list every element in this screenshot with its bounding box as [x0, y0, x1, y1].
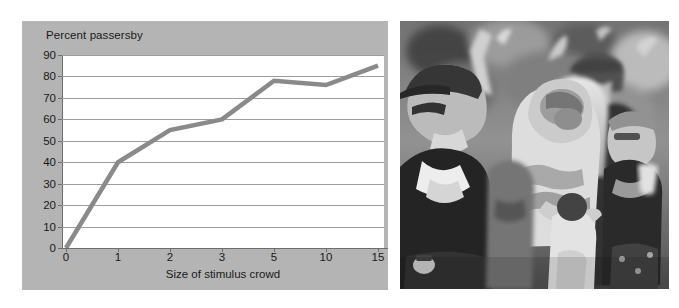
- x-axis-title: Size of stimulus crowd: [62, 268, 384, 280]
- y-tick-mark: [58, 184, 62, 185]
- y-tick-label: 0: [22, 242, 56, 254]
- figure-page: Percent passersby 0102030405060708090 01…: [0, 0, 679, 308]
- x-tick-label: 10: [320, 251, 333, 263]
- x-tick-mark: [222, 248, 223, 252]
- x-tick-mark: [274, 248, 275, 252]
- y-tick-mark: [58, 76, 62, 77]
- y-tick-label: 60: [22, 113, 56, 125]
- x-tick-mark: [118, 248, 119, 252]
- series-line: [62, 55, 384, 248]
- y-tick-label: 90: [22, 49, 56, 61]
- x-tick-label: 15: [372, 251, 385, 263]
- y-tick-label: 70: [22, 92, 56, 104]
- y-tick-mark: [58, 55, 62, 56]
- y-tick-mark: [58, 141, 62, 142]
- x-tick-label: 0: [63, 251, 69, 263]
- y-tick-label: 50: [22, 135, 56, 147]
- crowd-photograph: [400, 21, 669, 289]
- plot-area: [62, 55, 384, 248]
- x-tick-mark: [378, 248, 379, 252]
- y-axis-title: Percent passersby: [46, 29, 143, 41]
- x-axis-line: [58, 248, 388, 249]
- y-tick-label: 20: [22, 199, 56, 211]
- chart-panel: Percent passersby 0102030405060708090 01…: [22, 21, 388, 290]
- x-tick-label: 5: [271, 251, 277, 263]
- y-tick-label: 80: [22, 70, 56, 82]
- y-tick-mark: [58, 119, 62, 120]
- y-tick-mark: [58, 227, 62, 228]
- x-tick-label: 3: [219, 251, 225, 263]
- y-tick-label: 30: [22, 178, 56, 190]
- x-tick-mark: [170, 248, 171, 252]
- y-tick-mark: [58, 98, 62, 99]
- y-tick-label: 40: [22, 156, 56, 168]
- x-tick-mark: [326, 248, 327, 252]
- photo-content: [400, 21, 669, 289]
- x-tick-mark: [66, 248, 67, 252]
- x-tick-label: 2: [167, 251, 173, 263]
- y-tick-mark: [58, 162, 62, 163]
- y-tick-label: 10: [22, 221, 56, 233]
- x-tick-label: 1: [115, 251, 121, 263]
- y-tick-mark: [58, 205, 62, 206]
